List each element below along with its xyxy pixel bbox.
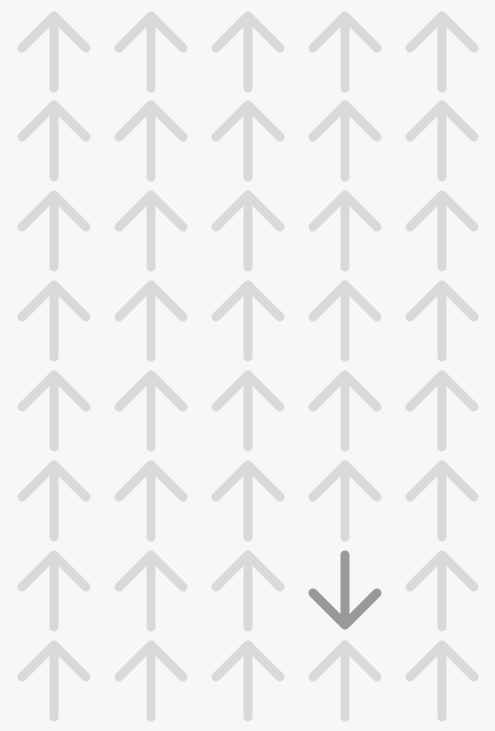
arrow-up-icon	[106, 8, 196, 98]
arrow-up-icon	[397, 547, 487, 637]
arrow-up-icon	[9, 367, 99, 457]
arrow-cell[interactable]	[106, 8, 196, 98]
arrow-up-icon	[203, 457, 293, 547]
arrow-cell[interactable]	[9, 187, 99, 277]
arrow-cell[interactable]	[300, 277, 390, 367]
arrow-cell[interactable]	[397, 187, 487, 277]
arrow-up-icon	[203, 547, 293, 637]
arrow-cell[interactable]	[9, 457, 99, 547]
arrow-cell[interactable]	[203, 457, 293, 547]
arrow-cell[interactable]	[9, 8, 99, 98]
arrow-up-icon	[203, 367, 293, 457]
arrow-cell[interactable]	[9, 97, 99, 187]
arrow-cell[interactable]	[203, 547, 293, 637]
arrow-cell[interactable]	[106, 97, 196, 187]
arrow-cell[interactable]	[397, 547, 487, 637]
arrow-up-icon	[397, 637, 487, 727]
arrow-cell[interactable]	[397, 367, 487, 457]
arrow-cell[interactable]	[106, 637, 196, 727]
arrow-up-icon	[300, 277, 390, 367]
arrow-cell[interactable]	[203, 187, 293, 277]
arrow-grid	[0, 0, 495, 731]
arrow-cell[interactable]	[300, 457, 390, 547]
arrow-cell[interactable]	[9, 637, 99, 727]
arrow-up-icon	[203, 8, 293, 98]
arrow-cell[interactable]	[9, 277, 99, 367]
arrow-down-icon	[300, 547, 390, 637]
arrow-up-icon	[300, 187, 390, 277]
arrow-cell[interactable]	[203, 97, 293, 187]
arrow-cell[interactable]	[397, 457, 487, 547]
arrow-up-icon	[106, 637, 196, 727]
arrow-up-icon	[397, 277, 487, 367]
arrow-up-icon	[106, 277, 196, 367]
arrow-cell[interactable]	[106, 457, 196, 547]
arrow-cell[interactable]	[300, 367, 390, 457]
arrow-cell[interactable]	[203, 367, 293, 457]
arrow-up-icon	[9, 547, 99, 637]
arrow-cell[interactable]	[300, 637, 390, 727]
arrow-up-icon	[9, 457, 99, 547]
arrow-up-icon	[106, 367, 196, 457]
arrow-up-icon	[9, 8, 99, 98]
arrow-up-icon	[9, 97, 99, 187]
arrow-up-icon	[300, 367, 390, 457]
arrow-cell[interactable]	[203, 637, 293, 727]
arrow-cell[interactable]	[397, 97, 487, 187]
arrow-cell[interactable]	[106, 187, 196, 277]
arrow-cell[interactable]	[203, 277, 293, 367]
arrow-cell[interactable]	[300, 97, 390, 187]
arrow-cell[interactable]	[106, 547, 196, 637]
arrow-up-icon	[9, 637, 99, 727]
arrow-up-icon	[300, 97, 390, 187]
arrow-up-icon	[9, 277, 99, 367]
arrow-cell[interactable]	[203, 8, 293, 98]
arrow-up-icon	[106, 97, 196, 187]
arrow-up-icon	[203, 97, 293, 187]
arrow-up-icon	[300, 637, 390, 727]
arrow-up-icon	[397, 8, 487, 98]
arrow-cell[interactable]	[397, 8, 487, 98]
arrow-cell[interactable]	[106, 277, 196, 367]
arrow-up-icon	[397, 457, 487, 547]
arrow-up-icon	[203, 277, 293, 367]
arrow-up-icon	[203, 187, 293, 277]
arrow-cell[interactable]	[300, 547, 390, 637]
arrow-up-icon	[203, 637, 293, 727]
arrow-cell[interactable]	[9, 367, 99, 457]
arrow-up-icon	[300, 8, 390, 98]
arrow-up-icon	[397, 367, 487, 457]
arrow-up-icon	[106, 547, 196, 637]
arrow-up-icon	[9, 187, 99, 277]
arrow-cell[interactable]	[300, 8, 390, 98]
arrow-up-icon	[106, 187, 196, 277]
arrow-up-icon	[397, 97, 487, 187]
arrow-cell[interactable]	[397, 637, 487, 727]
arrow-cell[interactable]	[397, 277, 487, 367]
arrow-up-icon	[397, 187, 487, 277]
arrow-cell[interactable]	[106, 367, 196, 457]
arrow-cell[interactable]	[300, 187, 390, 277]
arrow-up-icon	[300, 457, 390, 547]
arrow-up-icon	[106, 457, 196, 547]
arrow-cell[interactable]	[9, 547, 99, 637]
